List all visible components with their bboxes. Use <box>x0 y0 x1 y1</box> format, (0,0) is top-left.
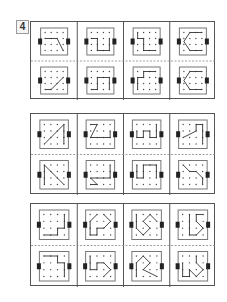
grid-dot <box>149 255 150 256</box>
dot-grid-tile[interactable] <box>176 210 211 240</box>
grid-dot <box>44 50 45 51</box>
grid-dot <box>91 71 92 72</box>
grid-dot <box>143 143 144 144</box>
dot-grid-tile[interactable] <box>37 210 72 240</box>
connector-tab <box>159 131 163 137</box>
dot-grid-tile[interactable] <box>38 67 70 94</box>
grid-dot <box>143 184 144 185</box>
grid-dot <box>109 71 110 72</box>
dot-grid-tile[interactable] <box>84 120 118 149</box>
dot-grid-tile[interactable] <box>84 67 116 94</box>
dot-grid-tile[interactable] <box>130 161 164 190</box>
connector-tab <box>84 131 88 137</box>
connector-tab <box>131 78 135 84</box>
grid-dot <box>183 32 184 33</box>
dot-grid-tile[interactable] <box>176 161 210 190</box>
grid-dot <box>183 44 184 45</box>
grid-dot <box>63 177 64 178</box>
dot-grid-tile[interactable] <box>37 161 71 190</box>
dot-grid-tile[interactable] <box>83 210 118 240</box>
dot-grid-tile[interactable] <box>37 252 72 282</box>
grid-dot <box>195 38 196 39</box>
grid-dot <box>110 255 111 256</box>
puzzle-section-3 <box>30 203 215 286</box>
grid-dot <box>44 77 45 78</box>
grid-dot <box>103 89 104 90</box>
connector-tab <box>160 263 164 269</box>
dot-grid-tile[interactable] <box>177 67 209 94</box>
grid-dot <box>182 234 183 235</box>
grid-dot <box>110 227 111 228</box>
connector-tab <box>84 78 88 84</box>
grid-dot <box>149 77 150 78</box>
grid-dot <box>110 276 111 277</box>
dot-grid-tile[interactable] <box>84 161 118 190</box>
connector-tab <box>159 78 163 84</box>
grid-dot <box>44 71 45 72</box>
grid-dot <box>155 77 156 78</box>
grid-dot <box>96 221 97 222</box>
grid-dot <box>63 164 64 165</box>
grid-dot <box>182 255 183 256</box>
section-drawing <box>31 22 216 100</box>
grid-dot <box>103 38 104 39</box>
dot-grid-tile[interactable] <box>130 120 164 149</box>
dot-grid-tile[interactable] <box>129 210 164 240</box>
grid-dot <box>109 32 110 33</box>
dot-grid-tile[interactable] <box>38 28 70 55</box>
grid-dot <box>44 32 45 33</box>
connector-tab <box>37 263 41 269</box>
grid-dot <box>195 77 196 78</box>
grid-dot <box>202 221 203 222</box>
grid-dot <box>155 89 156 90</box>
grid-dot <box>91 50 92 51</box>
grid-dot <box>149 269 150 270</box>
grid-dot <box>156 269 157 270</box>
grid-dot <box>50 269 51 270</box>
dot-grid-tile[interactable] <box>131 67 163 94</box>
grid-dot <box>183 71 184 72</box>
dot-grid-tile[interactable] <box>129 252 164 282</box>
dot-grid-tile[interactable] <box>84 28 116 55</box>
grid-dot <box>89 214 90 215</box>
connector-tab <box>114 222 118 228</box>
grid-dot <box>195 177 196 178</box>
grid-dot <box>136 143 137 144</box>
connector-tab <box>113 172 117 178</box>
grid-dot <box>202 171 203 172</box>
grid-dot <box>189 262 190 263</box>
grid-dot <box>90 143 91 144</box>
dot-grid-tile[interactable] <box>37 120 71 149</box>
grid-dot <box>195 164 196 165</box>
grid-dot <box>155 83 156 84</box>
grid-dot <box>43 214 44 215</box>
grid-dot <box>156 184 157 185</box>
grid-dot <box>143 83 144 84</box>
grid-dot <box>195 143 196 144</box>
grid-dot <box>195 137 196 138</box>
grid-dot <box>196 227 197 228</box>
grid-dot <box>143 262 144 263</box>
grid-dot <box>202 234 203 235</box>
grid-dot <box>202 255 203 256</box>
grid-dot <box>50 44 51 45</box>
grid-dot <box>110 214 111 215</box>
grid-dot <box>182 177 183 178</box>
dot-grid-tile[interactable] <box>176 252 211 282</box>
dot-grid-tile[interactable] <box>131 28 163 55</box>
grid-dot <box>149 143 150 144</box>
grid-dot <box>44 124 45 125</box>
grid-dot <box>183 83 184 84</box>
connector-tab <box>159 172 163 178</box>
section-drawing <box>31 114 216 195</box>
dot-grid-tile[interactable] <box>176 120 210 149</box>
grid-dot <box>183 50 184 51</box>
dot-grid-tile[interactable] <box>177 28 209 55</box>
connector-tab <box>112 39 116 45</box>
grid-dot <box>137 44 138 45</box>
grid-dot <box>182 221 183 222</box>
grid-dot <box>183 77 184 78</box>
connector-tab <box>67 222 71 228</box>
grid-dot <box>91 32 92 33</box>
dot-grid-tile[interactable] <box>83 252 118 282</box>
